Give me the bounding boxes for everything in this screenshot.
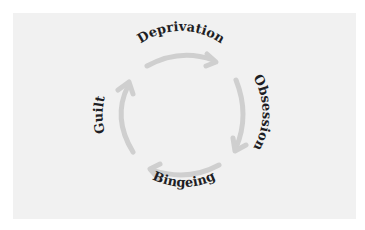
arrow-obsession-to-bingeing: [233, 80, 246, 151]
arrow-deprivation-to-obsession: [147, 54, 216, 66]
arrow-guilt-to-deprivation: [118, 82, 133, 152]
stage-label-obsession: Obsession: [250, 72, 274, 154]
cycle-diagram: Deprivation Obsession Bingeing Guilt: [0, 0, 365, 230]
stage-label-deprivation: Deprivation: [134, 19, 228, 47]
stage-label-guilt: Guilt: [90, 94, 107, 135]
stage-label-bingeing: Bingeing: [151, 168, 218, 190]
